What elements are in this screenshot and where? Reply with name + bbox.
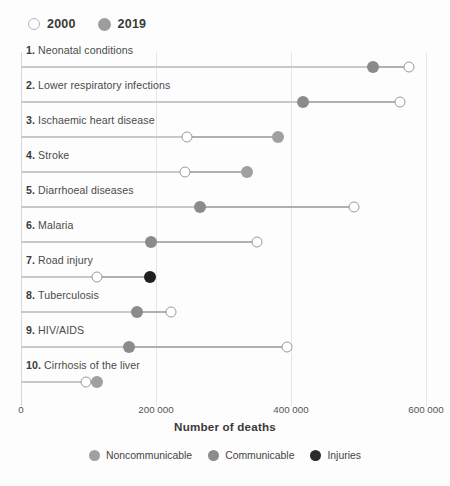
chart-row[interactable]: 2. Lower respiratory infections [0, 79, 450, 114]
legend-item-injuries[interactable]: Injuries [310, 450, 361, 461]
marker-2019[interactable] [144, 271, 156, 283]
marker-2000[interactable] [91, 271, 102, 282]
marker-2019[interactable] [123, 341, 135, 353]
row-rank: 10. [26, 359, 44, 371]
marker-2019[interactable] [367, 61, 379, 73]
row-baseline [21, 206, 200, 208]
row-baseline [21, 241, 151, 243]
marker-2019[interactable] [91, 376, 103, 388]
filled-circle-icon [98, 18, 111, 31]
row-name: Neonatal conditions [38, 44, 133, 56]
row-label: 4. Stroke [26, 149, 69, 161]
chart-row[interactable]: 6. Malaria [0, 219, 450, 254]
row-rank: 9. [26, 324, 38, 336]
chart-row[interactable]: 8. Tuberculosis [0, 289, 450, 324]
marker-2019[interactable] [145, 236, 157, 248]
row-name: Diarrhoeal diseases [38, 184, 134, 196]
legend-label-injuries: Injuries [327, 450, 361, 461]
row-connector [185, 171, 247, 173]
legend-item-noncommunicable[interactable]: Noncommunicable [89, 450, 192, 461]
chart-row[interactable]: 4. Stroke [0, 149, 450, 184]
category-legend: Noncommunicable Communicable Injuries [0, 450, 450, 461]
marker-2019[interactable] [241, 166, 253, 178]
row-label: 2. Lower respiratory infections [26, 79, 170, 91]
row-label: 5. Diarrhoeal diseases [26, 184, 134, 196]
row-rank: 1. [26, 44, 38, 56]
row-name: Stroke [38, 149, 69, 161]
x-tick-label: 400 000 [273, 404, 308, 415]
row-name: Road injury [38, 254, 93, 266]
marker-2000[interactable] [180, 166, 191, 177]
communicable-swatch-icon [208, 450, 219, 461]
row-name: HIV/AIDS [38, 324, 84, 336]
row-rank: 4. [26, 149, 38, 161]
chart-row[interactable]: 1. Neonatal conditions [0, 44, 450, 79]
chart-row[interactable]: 10. Cirrhosis of the liver [0, 359, 450, 394]
row-baseline [21, 276, 97, 278]
row-connector [303, 101, 400, 103]
marker-2000[interactable] [281, 341, 292, 352]
row-connector [129, 346, 287, 348]
legend-item-2000[interactable]: 2000 [28, 17, 76, 31]
year-legend: 2000 2019 [28, 14, 146, 34]
chart-row[interactable]: 5. Diarrhoeal diseases [0, 184, 450, 219]
row-label: 10. Cirrhosis of the liver [26, 359, 140, 371]
row-name: Tuberculosis [38, 289, 99, 301]
marker-2000[interactable] [251, 236, 262, 247]
row-rank: 8. [26, 289, 38, 301]
marker-2019[interactable] [272, 131, 284, 143]
chart-row[interactable]: 3. Ischaemic heart disease [0, 114, 450, 149]
row-connector [151, 241, 257, 243]
row-name: Malaria [38, 219, 73, 231]
row-label: 3. Ischaemic heart disease [26, 114, 155, 126]
legend-label-communicable: Communicable [225, 450, 294, 461]
row-rank: 6. [26, 219, 38, 231]
chart-rows: 1. Neonatal conditions2. Lower respirato… [0, 40, 450, 408]
marker-2019[interactable] [131, 306, 143, 318]
row-label: 6. Malaria [26, 219, 74, 231]
row-baseline [21, 136, 187, 138]
row-label: 8. Tuberculosis [26, 289, 99, 301]
row-baseline [21, 101, 303, 103]
x-axis-title: Number of deaths [0, 420, 450, 433]
x-tick-label: 200 000 [138, 404, 173, 415]
marker-2019[interactable] [194, 201, 206, 213]
row-name: Cirrhosis of the liver [44, 359, 140, 371]
noncommunicable-swatch-icon [89, 450, 100, 461]
row-baseline [21, 66, 373, 68]
chart-row[interactable]: 9. HIV/AIDS [0, 324, 450, 359]
hollow-circle-icon [28, 18, 40, 30]
legend-item-communicable[interactable]: Communicable [208, 450, 294, 461]
marker-2000[interactable] [404, 61, 415, 72]
row-rank: 3. [26, 114, 38, 126]
row-rank: 2. [26, 79, 38, 91]
row-connector [200, 206, 354, 208]
marker-2000[interactable] [182, 131, 193, 142]
plot-area: 1. Neonatal conditions2. Lower respirato… [0, 40, 450, 408]
legend-label-2019: 2019 [118, 17, 147, 31]
marker-2000[interactable] [165, 306, 176, 317]
x-tick-label: 600 000 [408, 404, 443, 415]
row-baseline [21, 171, 185, 173]
dumbbell-chart: 2000 2019 1. Neonatal conditions2. Lower… [0, 0, 450, 486]
row-connector [187, 136, 278, 138]
row-label: 1. Neonatal conditions [26, 44, 133, 56]
marker-2000[interactable] [348, 201, 359, 212]
chart-row[interactable]: 7. Road injury [0, 254, 450, 289]
x-tick-label: 0 [18, 404, 23, 415]
row-baseline [21, 381, 86, 383]
legend-label-2000: 2000 [47, 17, 76, 31]
marker-2000[interactable] [394, 96, 405, 107]
row-name: Lower respiratory infections [38, 79, 170, 91]
row-label: 7. Road injury [26, 254, 93, 266]
injuries-swatch-icon [310, 450, 321, 461]
marker-2000[interactable] [80, 376, 91, 387]
marker-2019[interactable] [297, 96, 309, 108]
row-connector [97, 276, 150, 278]
legend-item-2019[interactable]: 2019 [98, 17, 147, 31]
legend-label-noncommunicable: Noncommunicable [106, 450, 192, 461]
row-name: Ischaemic heart disease [38, 114, 155, 126]
row-rank: 7. [26, 254, 38, 266]
row-baseline [21, 311, 137, 313]
row-rank: 5. [26, 184, 38, 196]
